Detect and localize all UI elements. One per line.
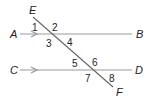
point-label-e: E — [29, 4, 37, 16]
angle-label-7: 7 — [85, 73, 91, 84]
line-ef — [33, 17, 113, 87]
angle-label-4: 4 — [67, 37, 73, 48]
point-label-c: C — [10, 64, 18, 76]
point-label-a: A — [9, 28, 17, 40]
parallel-lines-diagram: EFABCD 12345678 — [0, 0, 150, 101]
angle-label-8: 8 — [109, 73, 115, 84]
transversal-line — [33, 17, 113, 87]
point-label-b: B — [136, 28, 143, 40]
angle-label-3: 3 — [46, 38, 52, 49]
angle-label-2: 2 — [52, 22, 58, 33]
point-label-d: D — [135, 64, 143, 76]
angle-label-5: 5 — [72, 58, 78, 69]
angle-label-1: 1 — [32, 22, 38, 33]
angle-label-6: 6 — [92, 57, 98, 68]
point-label-f: F — [116, 86, 124, 98]
point-labels: EFABCD — [9, 4, 143, 98]
